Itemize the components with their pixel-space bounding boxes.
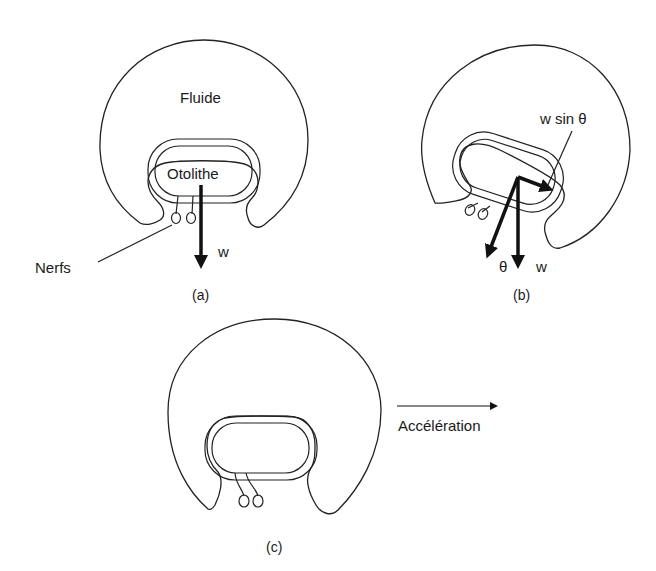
hair-cell-c1: [239, 495, 249, 507]
hair-cell-stalks-a: [176, 196, 193, 214]
angle-label: θ: [499, 258, 507, 275]
caption-c: (c): [266, 539, 282, 555]
caption-b: (b): [513, 287, 530, 303]
fluid-label: Fluide: [180, 89, 221, 106]
membrane-c: [205, 416, 317, 480]
panel-c: Accélération (c): [168, 319, 494, 555]
fluid-chamber-b: [422, 45, 630, 248]
tangential-component-arrow: [518, 177, 547, 188]
nerves-label: Nerfs: [35, 259, 71, 276]
hair-cell-a1: [172, 213, 181, 224]
otolith-diagram: Fluide Otolithe w Nerfs (a) w sin θ θ w …: [0, 0, 656, 571]
hair-cell-b2: [476, 207, 489, 221]
component-label: w sin θ: [539, 110, 587, 127]
hair-cell-stalks-c: [235, 473, 258, 496]
weight-label-a: w: [217, 243, 229, 260]
panel-b: w sin θ θ w (b): [422, 45, 630, 303]
fluid-chamber-a: [100, 40, 308, 227]
weight-label-b: w: [535, 258, 547, 275]
nerves-leader-line: [98, 225, 172, 262]
hair-cell-c2: [253, 495, 263, 507]
acceleration-label: Accélération: [398, 417, 481, 434]
otolith-label: Otolithe: [167, 165, 219, 182]
normal-component-arrow: [489, 177, 518, 252]
panel-a: Fluide Otolithe w Nerfs (a): [35, 40, 308, 303]
caption-a: (a): [192, 287, 209, 303]
otolith-c: [212, 423, 309, 473]
hair-cell-a2: [187, 213, 196, 224]
